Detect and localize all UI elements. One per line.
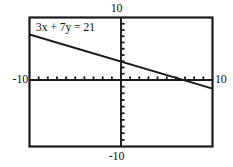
coordinate-plane-figure: 10 -10 10 -10 3x + 7y = 21	[0, 0, 233, 167]
plot-canvas	[0, 0, 233, 167]
